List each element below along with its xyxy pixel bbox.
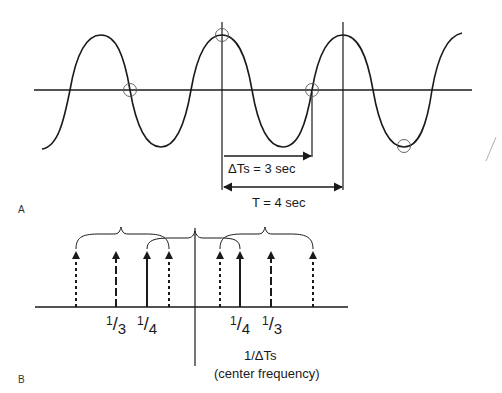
panel-a-letter: A	[18, 204, 25, 215]
frequency-label-right-quarter: 1/4	[230, 314, 250, 337]
fraction-numerator: 1	[137, 314, 144, 328]
fraction-denominator: 3	[118, 320, 126, 337]
fraction-denominator: 4	[149, 320, 157, 337]
arrowhead-icon	[143, 251, 151, 259]
brace-right-outer	[220, 227, 313, 249]
arrowhead-icon	[72, 251, 80, 259]
delta-ts-label: ΔTs = 3 sec	[228, 161, 296, 176]
arrowhead-icon	[165, 251, 173, 259]
frequency-label-right-third: 1/3	[262, 314, 282, 337]
arrowhead-icon	[112, 251, 120, 259]
frequency-label-left-quarter: 1/4	[137, 314, 157, 337]
diagram-canvas	[0, 0, 502, 393]
panel-b	[35, 227, 348, 366]
center-frequency-sublabel: (center frequency)	[214, 366, 320, 381]
brace-center	[147, 231, 240, 249]
arrowhead-icon	[267, 251, 275, 259]
pencil-mark	[486, 137, 496, 161]
period-label: T = 4 sec	[252, 195, 306, 210]
arrowhead-icon	[216, 251, 224, 259]
center-frequency-label: 1/ΔTs	[244, 348, 277, 363]
sine-waveform	[42, 33, 462, 149]
arrowhead-icon	[309, 251, 317, 259]
fraction-numerator: 1	[106, 314, 113, 328]
fraction-numerator: 1	[230, 314, 237, 328]
brace-left-outer	[76, 227, 169, 249]
fraction-denominator: 3	[274, 320, 282, 337]
arrowhead-icon	[236, 251, 244, 259]
fraction-numerator: 1	[262, 314, 269, 328]
frequency-label-left-third: 1/3	[106, 314, 126, 337]
panel-b-letter: B	[18, 374, 25, 385]
fraction-denominator: 4	[242, 320, 250, 337]
